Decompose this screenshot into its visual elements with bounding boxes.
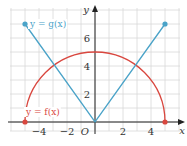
g-endpoint-dot	[162, 21, 167, 26]
origin-label: O	[81, 126, 89, 137]
g-endpoint-dot	[22, 21, 27, 26]
y-tick-label: 4	[84, 61, 90, 72]
x-axis-label: x	[179, 125, 185, 136]
y-axis-arrow-icon	[92, 5, 98, 12]
function-graph: −4−224246Oxyy = g(x)y = f(x)	[0, 0, 187, 146]
y-tick-label: 6	[84, 33, 90, 44]
f-endpoint-dot	[162, 119, 167, 124]
x-tick-label: −4	[32, 126, 47, 137]
y-axis-label: y	[82, 4, 89, 15]
x-tick-label: 2	[120, 126, 126, 137]
x-tick-label: −2	[60, 126, 75, 137]
f-legend-label: y = f(x)	[25, 107, 60, 117]
y-tick-label: 2	[84, 89, 90, 100]
f-endpoint-dot	[22, 119, 27, 124]
g-legend-label: y = g(x)	[29, 19, 66, 29]
x-tick-label: 4	[148, 126, 154, 137]
